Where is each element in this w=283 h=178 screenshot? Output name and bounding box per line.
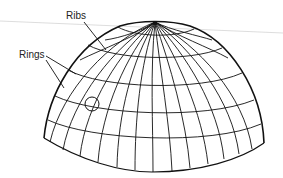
dome-apex [153,21,157,25]
dome-diagram: Ribs Rings [0,0,283,178]
dome-rings [48,27,261,138]
highlight-circle-marker [85,97,99,111]
rings-leader-line-lower [46,60,64,88]
ribs-label: Ribs [66,10,86,21]
leader-lines [46,22,106,88]
rings-label: Rings [19,49,45,60]
dome-ribs [50,22,252,172]
dome-outline [44,22,264,173]
